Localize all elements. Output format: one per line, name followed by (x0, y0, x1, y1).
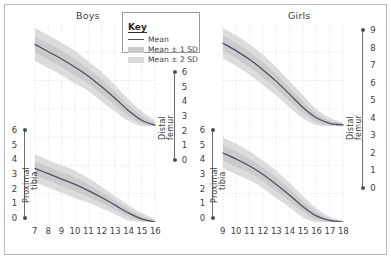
ytick: 3 (180, 112, 189, 120)
xtick: 9 (216, 226, 229, 236)
ytick: 7 (368, 61, 378, 69)
legend-item-sd1: Mean ± 1 SD (128, 45, 195, 54)
xtick: 10 (68, 226, 81, 236)
ytick: 8 (368, 44, 378, 52)
ytick: 4 (10, 155, 19, 163)
yaxis-girls-proximal-tibia: 6 5 4 3 2 1 0 (198, 126, 207, 222)
xtick: 11 (243, 226, 256, 236)
ytick: 1 (10, 199, 19, 207)
ytick: 0 (198, 214, 207, 222)
xtick: 14 (122, 226, 135, 236)
ytick: 6 (368, 79, 378, 87)
xtick: 8 (41, 226, 54, 236)
ytick: 6 (10, 126, 19, 134)
legend-swatch-sd2 (128, 57, 144, 63)
plot-area-girls (222, 24, 344, 222)
xtick: 16 (149, 226, 162, 236)
xtick: 15 (135, 226, 148, 236)
axis-label-girls-distal-femur-line2: femur (354, 115, 363, 140)
ytick: 5 (198, 141, 207, 149)
legend-label-sd2: Mean ± 2 SD (148, 56, 198, 64)
ytick: 4 (198, 155, 207, 163)
legend-item-mean: Mean (128, 35, 195, 44)
ytick: 5 (368, 96, 378, 104)
yaxis-boys-distal-femur: 6 5 4 3 2 1 0 (180, 68, 189, 164)
ytick: 0 (180, 156, 189, 164)
ytick: 1 (198, 199, 207, 207)
xtick: 12 (95, 226, 108, 236)
legend-label-sd1: Mean ± 1 SD (148, 46, 198, 54)
ytick: 3 (198, 170, 207, 178)
ytick: 2 (198, 185, 207, 193)
ytick: 4 (368, 114, 378, 122)
ytick: 3 (10, 170, 19, 178)
ytick: 6 (198, 126, 207, 134)
legend-label-mean: Mean (148, 36, 169, 44)
ytick: 2 (368, 149, 378, 157)
xtick: 16 (310, 226, 323, 236)
xtick: 12 (256, 226, 269, 236)
growth-remaining-chart: Boys 7 8 9 10 11 12 13 14 15 16 6 5 4 3 … (0, 0, 391, 259)
ytick: 3 (368, 131, 378, 139)
ytick: 1 (180, 141, 189, 149)
legend-swatch-sd1 (128, 47, 144, 53)
xaxis-girls: 9 10 11 12 13 14 15 16 17 18 (216, 226, 350, 236)
xtick: 15 (296, 226, 309, 236)
ytick: 2 (180, 127, 189, 135)
panel-title-girls: Girls (288, 10, 311, 21)
legend-key: Key Mean Mean ± 1 SD Mean ± 2 SD (122, 12, 200, 53)
ytick: 4 (180, 97, 189, 105)
xtick: 9 (55, 226, 68, 236)
ytick: 5 (10, 141, 19, 149)
xaxis-boys: 7 8 9 10 11 12 13 14 15 16 (28, 226, 162, 236)
xtick: 13 (108, 226, 121, 236)
yaxis-girls-distal-femur: 9 8 7 6 5 4 3 2 1 0 (368, 26, 378, 192)
legend-title: Key (128, 22, 147, 33)
ytick: 9 (368, 26, 378, 34)
axis-label-boys-proximal-tibia-line2: tibia (30, 171, 39, 190)
ytick: 5 (180, 83, 189, 91)
girls-curves (222, 24, 344, 222)
axis-label-girls-proximal-tibia-line2: tibia (218, 171, 227, 190)
yaxis-boys-proximal-tibia: 6 5 4 3 2 1 0 (10, 126, 19, 222)
axis-label-boys-distal-femur-line2: femur (166, 115, 175, 140)
xtick: 11 (82, 226, 95, 236)
xtick: 18 (337, 226, 350, 236)
panel-title-boys: Boys (76, 10, 100, 21)
xtick: 7 (28, 226, 41, 236)
legend-item-sd2: Mean ± 2 SD (128, 55, 195, 64)
ytick: 6 (180, 68, 189, 76)
ytick: 0 (368, 184, 378, 192)
xtick: 13 (270, 226, 283, 236)
xtick: 14 (283, 226, 296, 236)
ytick: 1 (368, 166, 378, 174)
ytick: 0 (10, 214, 19, 222)
xtick: 17 (323, 226, 336, 236)
xtick: 10 (229, 226, 242, 236)
legend-swatch-mean-line (128, 39, 144, 40)
ytick: 2 (10, 185, 19, 193)
scale-bracket-girls-distal-femur (362, 30, 363, 188)
